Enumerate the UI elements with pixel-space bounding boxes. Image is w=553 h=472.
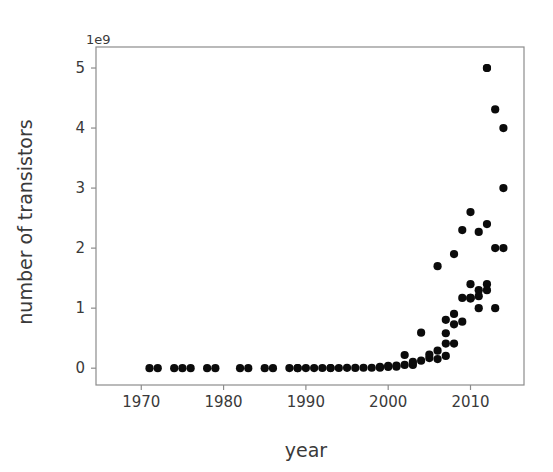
x-tick-label: 1980 xyxy=(204,393,242,411)
data-point xyxy=(392,363,400,371)
data-point xyxy=(450,339,458,347)
x-axis-title: year xyxy=(285,439,328,461)
data-point xyxy=(236,364,244,372)
plot-canvas: 19701980199020002010 012345 1e9 year num… xyxy=(0,0,553,472)
y-tick-group: 012345 xyxy=(75,59,96,377)
data-point xyxy=(483,64,491,72)
data-point xyxy=(244,364,252,372)
data-point xyxy=(433,347,441,355)
data-point xyxy=(425,350,433,358)
data-point xyxy=(351,364,359,372)
data-point xyxy=(285,364,293,372)
x-tick-label: 1990 xyxy=(287,393,325,411)
data-point xyxy=(466,294,474,302)
data-point xyxy=(442,316,450,324)
data-point xyxy=(269,364,277,372)
data-point xyxy=(326,364,334,372)
data-point xyxy=(466,208,474,216)
data-point xyxy=(318,364,326,372)
y-tick-label: 4 xyxy=(75,119,85,137)
data-point xyxy=(450,250,458,258)
data-point xyxy=(417,357,425,365)
data-point xyxy=(442,329,450,337)
data-point xyxy=(458,226,466,234)
data-point xyxy=(170,364,178,372)
data-point xyxy=(458,318,466,326)
data-point xyxy=(154,364,162,372)
data-point-group xyxy=(145,64,507,372)
data-point xyxy=(145,364,153,372)
data-point xyxy=(401,351,409,359)
y-tick-label: 3 xyxy=(75,179,85,197)
y-axis-offset-label: 1e9 xyxy=(86,32,111,47)
data-point xyxy=(442,352,450,360)
y-axis-title: number of transistors xyxy=(14,119,36,324)
data-point xyxy=(466,280,474,288)
data-point xyxy=(401,361,409,369)
data-point xyxy=(450,320,458,328)
data-point xyxy=(376,363,384,371)
data-point xyxy=(483,220,491,228)
data-point xyxy=(475,228,483,236)
data-point xyxy=(211,364,219,372)
x-tick-label: 1970 xyxy=(122,393,160,411)
data-point xyxy=(384,362,392,370)
data-point xyxy=(433,355,441,363)
data-point xyxy=(187,364,195,372)
data-point xyxy=(491,105,499,113)
data-point xyxy=(491,244,499,252)
x-tick-group: 19701980199020002010 xyxy=(122,385,489,411)
data-point xyxy=(417,329,425,337)
y-tick-label: 2 xyxy=(75,239,85,257)
data-point xyxy=(475,292,483,300)
data-point xyxy=(310,364,318,372)
data-point xyxy=(450,310,458,318)
data-point xyxy=(178,364,186,372)
y-tick-label: 5 xyxy=(75,59,85,77)
y-tick-label: 0 xyxy=(75,359,85,377)
data-point xyxy=(442,339,450,347)
data-point xyxy=(483,286,491,294)
data-point xyxy=(261,364,269,372)
data-point xyxy=(499,184,507,192)
axes-frame xyxy=(96,47,524,385)
data-point xyxy=(499,124,507,132)
x-tick-label: 2010 xyxy=(451,393,489,411)
data-point xyxy=(335,364,343,372)
data-point xyxy=(458,294,466,302)
y-tick-label: 1 xyxy=(75,299,85,317)
scatter-chart-figure: 19701980199020002010 012345 1e9 year num… xyxy=(0,0,553,472)
data-point xyxy=(433,262,441,270)
data-point xyxy=(302,364,310,372)
data-point xyxy=(409,358,417,366)
data-point xyxy=(491,304,499,312)
data-point xyxy=(475,304,483,312)
data-point xyxy=(343,364,351,372)
data-point xyxy=(359,364,367,372)
data-point xyxy=(499,244,507,252)
data-point xyxy=(368,364,376,372)
data-point xyxy=(294,364,302,372)
data-point xyxy=(203,364,211,372)
x-tick-label: 2000 xyxy=(369,393,407,411)
